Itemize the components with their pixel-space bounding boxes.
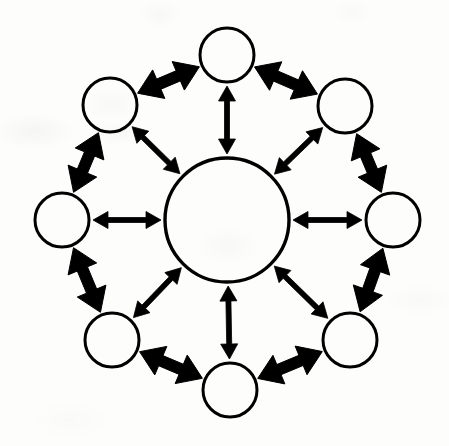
ring-upper-right-to-right-arrow	[351, 134, 386, 193]
spoke-hub-to-upper-right-node-arrow	[274, 128, 322, 175]
ring-bottom-to-lower-left-arrow	[140, 346, 203, 383]
top-node[interactable]	[200, 28, 254, 82]
spoke-hub-to-upper-left-node-arrow	[132, 127, 180, 174]
upper-right-node[interactable]	[318, 79, 372, 133]
ring-lower-left-to-left-arrow	[68, 248, 106, 313]
network-diagram-svg	[0, 0, 449, 446]
spoke-hub-to-bottom-node-arrow	[220, 286, 238, 359]
ring-upper-left-to-top-arrow	[138, 62, 200, 99]
bottom-node[interactable]	[203, 363, 257, 417]
spoke-hub-to-lower-left-node-arrow	[133, 268, 181, 318]
ring-top-to-upper-right-arrow	[255, 62, 318, 99]
lower-left-node[interactable]	[85, 313, 139, 367]
lower-right-node[interactable]	[323, 313, 377, 367]
ring-lower-right-to-bottom-arrow	[258, 346, 323, 384]
spoke-hub-to-lower-right-node-arrow	[274, 266, 328, 318]
spoke-hub-to-left-node-arrow	[93, 212, 161, 229]
right-node[interactable]	[366, 193, 420, 247]
network-diagram-canvas	[0, 0, 449, 446]
left-node[interactable]	[35, 193, 89, 247]
upper-left-node[interactable]	[83, 78, 137, 132]
ring-left-to-upper-left-arrow	[68, 133, 104, 193]
spoke-hub-to-right-node-arrow	[293, 212, 362, 229]
spoke-hub-to-top-node-arrow	[219, 86, 236, 154]
ring-right-to-lower-right-arrow	[353, 248, 389, 312]
hub-node[interactable]	[165, 158, 289, 282]
